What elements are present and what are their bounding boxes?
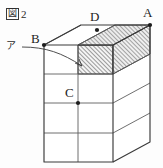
vertex-label-A: A (143, 6, 152, 19)
vertex-dot-C (76, 101, 80, 105)
vertex-label-D: D (90, 10, 99, 23)
vertex-dot-B (42, 43, 46, 47)
annotation-label-a: ア (6, 41, 16, 51)
vertex-label-C: C (65, 86, 74, 99)
vertex-dot-D (95, 28, 99, 32)
figure-caption-number: 2 (21, 9, 27, 20)
box-diagram-svg (0, 0, 163, 168)
vertex-dot-A (148, 23, 152, 27)
figure-caption-glyph: 図 (6, 8, 19, 20)
hatched-cube-front (78, 45, 113, 74)
figure-caption: 図 2 (6, 8, 27, 20)
figure-container: 図 2 D A B C ア (0, 0, 163, 168)
vertex-label-B: B (31, 32, 40, 45)
